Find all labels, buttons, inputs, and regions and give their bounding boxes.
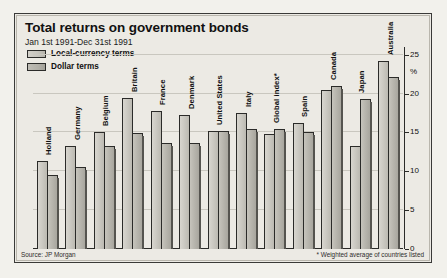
category-label: Holland: [44, 127, 53, 156]
source-note: Source: JP Morgan: [21, 251, 76, 258]
y-axis: 0510152025%: [404, 47, 438, 249]
category-label: Japan: [357, 71, 366, 93]
chart-subtitle: Jan 1st 1991-Dec 31st 1991: [25, 37, 423, 47]
y-tick-label-25: 25: [405, 55, 419, 63]
category-label: Italy: [244, 91, 253, 107]
bar-group: United States: [204, 47, 232, 249]
category-label: France: [158, 79, 167, 105]
category-label: Global index*: [272, 74, 281, 124]
plot-area: HollandGermanyBelgiumBritainFranceDenmar…: [33, 47, 403, 249]
bar: [132, 133, 143, 249]
category-label: United States: [215, 75, 224, 125]
bar: [161, 143, 172, 249]
y-tick-label-10: 10: [405, 171, 419, 179]
category-label: Denmark: [187, 75, 196, 108]
footnote-weighted-average: * Weighted average of countries listed: [316, 251, 424, 258]
bar: [75, 167, 86, 249]
bar-group: Japan: [346, 47, 374, 249]
y-axis-unit-label: %: [410, 68, 417, 76]
bar: [303, 132, 314, 249]
bar-group: Italy: [232, 47, 260, 249]
bar: [47, 175, 58, 249]
bar: [189, 143, 200, 249]
bar-groups: HollandGermanyBelgiumBritainFranceDenmar…: [33, 47, 403, 249]
category-label: Canada: [329, 52, 338, 80]
bar: [104, 146, 115, 249]
y-axis-line: [404, 47, 405, 249]
bar: [218, 131, 229, 249]
chart-figure: Total returns on government bonds Jan 1s…: [0, 0, 447, 278]
category-label: Belgium: [101, 96, 110, 127]
bar-group: Global index*: [261, 47, 289, 249]
bar-group: Germany: [61, 47, 89, 249]
bar-group: Britain: [118, 47, 146, 249]
category-label: Australia: [386, 22, 395, 55]
category-label: Britain: [130, 68, 139, 93]
y-tick-label-20: 20: [405, 94, 419, 102]
chart-header: Total returns on government bonds Jan 1s…: [25, 20, 423, 47]
y-tick-label-15: 15: [405, 132, 419, 140]
bar: [360, 99, 371, 249]
bar-group: Spain: [289, 47, 317, 249]
bar: [246, 129, 257, 249]
bar-group: France: [147, 47, 175, 249]
category-label: Germany: [73, 106, 82, 140]
bar-group: Holland: [33, 47, 61, 249]
bar-group: Denmark: [175, 47, 203, 249]
chart-title: Total returns on government bonds: [25, 20, 423, 35]
y-tick-label-5: 5: [405, 210, 414, 218]
bar: [331, 86, 342, 249]
bar-group: Canada: [318, 47, 346, 249]
bar: [274, 129, 285, 249]
bar-group: Australia: [375, 47, 403, 249]
category-label: Spain: [300, 96, 309, 117]
bar: [388, 77, 399, 249]
bar-group: Belgium: [90, 47, 118, 249]
chart-plate: Total returns on government bonds Jan 1s…: [14, 13, 432, 263]
